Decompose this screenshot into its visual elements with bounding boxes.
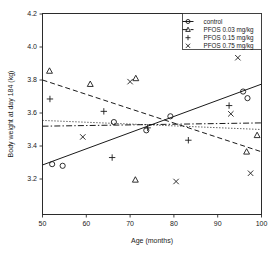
x-axis-title: Age (months)	[131, 237, 173, 245]
x-tick-label: 80	[170, 220, 178, 227]
x-tick-label: 50	[39, 220, 47, 227]
chart-figure: 4.2 4.0 3.8 3.6 3.4 3.2 50 60 70 80 90	[0, 0, 277, 255]
legend-label: PFOS 0.15 mg/kg	[204, 34, 255, 42]
y-axis-title: Body weight at day 184 (kg)	[7, 71, 15, 158]
x-tick-label: 70	[126, 220, 134, 227]
legend-label: PFOS 0.75 mg/kg	[204, 42, 255, 50]
y-tick-label: 3.2	[27, 175, 37, 182]
y-tick-label: 3.4	[27, 142, 37, 149]
scatter-plot: 4.2 4.0 3.8 3.6 3.4 3.2 50 60 70 80 90	[0, 0, 277, 255]
x-tick-label: 90	[214, 220, 222, 227]
legend-label: control	[204, 18, 223, 25]
legend: controlPFOS 0.03 mg/kgPFOS 0.15 mg/kgPFO…	[183, 14, 262, 51]
y-tick-label: 3.6	[27, 109, 37, 116]
x-tick-label: 100	[256, 220, 268, 227]
x-tick-label: 60	[82, 220, 90, 227]
y-tick-label: 4.2	[27, 10, 37, 17]
legend-label: PFOS 0.03 mg/kg	[204, 26, 255, 34]
y-tick-label: 4.0	[27, 43, 37, 50]
y-tick-label: 3.8	[27, 76, 37, 83]
